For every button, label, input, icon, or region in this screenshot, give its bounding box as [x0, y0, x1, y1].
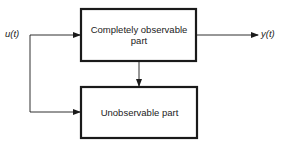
- observable-block-label: Completely observable part: [84, 11, 194, 59]
- input-signal-label: u(t): [5, 28, 19, 39]
- unobservable-block-label: Unobservable part: [84, 89, 195, 136]
- output-signal-label: y(t): [261, 28, 275, 39]
